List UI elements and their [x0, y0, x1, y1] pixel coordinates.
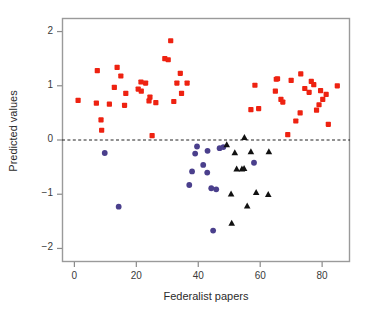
data-point: [118, 73, 123, 78]
data-point: [102, 150, 108, 156]
x-axis-tick-label: 80: [302, 270, 342, 281]
data-point: [189, 169, 195, 175]
data-point: [324, 92, 329, 97]
data-point: [116, 204, 122, 210]
data-point: [150, 133, 155, 138]
data-point: [95, 68, 100, 73]
data-point: [320, 97, 325, 102]
data-point: [166, 57, 171, 62]
data-point: [179, 91, 184, 96]
y-axis-tick-label: −1: [0, 187, 53, 198]
data-point: [256, 106, 261, 111]
data-point: [248, 107, 253, 112]
data-point: [185, 80, 190, 85]
data-point: [194, 144, 200, 150]
data-point: [153, 100, 158, 105]
data-point: [171, 99, 176, 104]
data-point: [311, 82, 316, 87]
data-point: [275, 76, 280, 81]
data-point: [298, 110, 303, 115]
data-point: [210, 228, 216, 234]
data-point: [122, 103, 127, 108]
scatter-plot-figure: Predicted values Federalist papers 210−1…: [0, 0, 369, 311]
data-point: [107, 102, 112, 107]
data-point: [112, 85, 117, 90]
data-point: [335, 83, 340, 88]
y-axis-tick-label: 1: [0, 79, 53, 90]
x-axis-tick-label: 0: [54, 270, 94, 281]
data-point: [99, 128, 104, 133]
data-point: [138, 79, 143, 84]
data-point: [192, 151, 198, 157]
x-axis-tick-label: 20: [116, 270, 156, 281]
data-point: [204, 170, 210, 176]
data-point: [123, 91, 128, 96]
data-point: [293, 118, 298, 123]
plot-area: [0, 0, 369, 311]
data-point: [208, 185, 214, 191]
data-point: [98, 117, 103, 122]
data-point: [205, 148, 211, 154]
data-point: [213, 186, 219, 192]
data-point: [143, 80, 148, 85]
data-point: [316, 102, 321, 107]
x-axis-tick-label: 40: [178, 270, 218, 281]
data-point: [280, 99, 285, 104]
data-point: [178, 71, 183, 76]
y-axis-tick-label: −2: [0, 241, 53, 252]
data-point: [326, 122, 331, 127]
data-point: [147, 95, 152, 100]
data-point: [139, 89, 144, 94]
data-point: [200, 162, 206, 168]
data-point: [298, 71, 303, 76]
data-point: [94, 101, 99, 106]
data-point: [252, 83, 257, 88]
data-point: [174, 80, 179, 85]
y-axis-tick-label: 2: [0, 25, 53, 36]
data-point: [115, 65, 120, 70]
data-point: [289, 78, 294, 83]
y-axis-tick-label: 0: [0, 133, 53, 144]
data-point: [285, 132, 290, 137]
data-point: [307, 90, 312, 95]
data-point: [314, 108, 319, 113]
data-point: [168, 38, 173, 43]
data-point: [186, 182, 192, 188]
data-point: [273, 89, 278, 94]
x-axis-tick-label: 60: [240, 270, 280, 281]
data-point: [318, 88, 323, 93]
data-point: [76, 98, 81, 103]
data-point: [251, 160, 257, 166]
